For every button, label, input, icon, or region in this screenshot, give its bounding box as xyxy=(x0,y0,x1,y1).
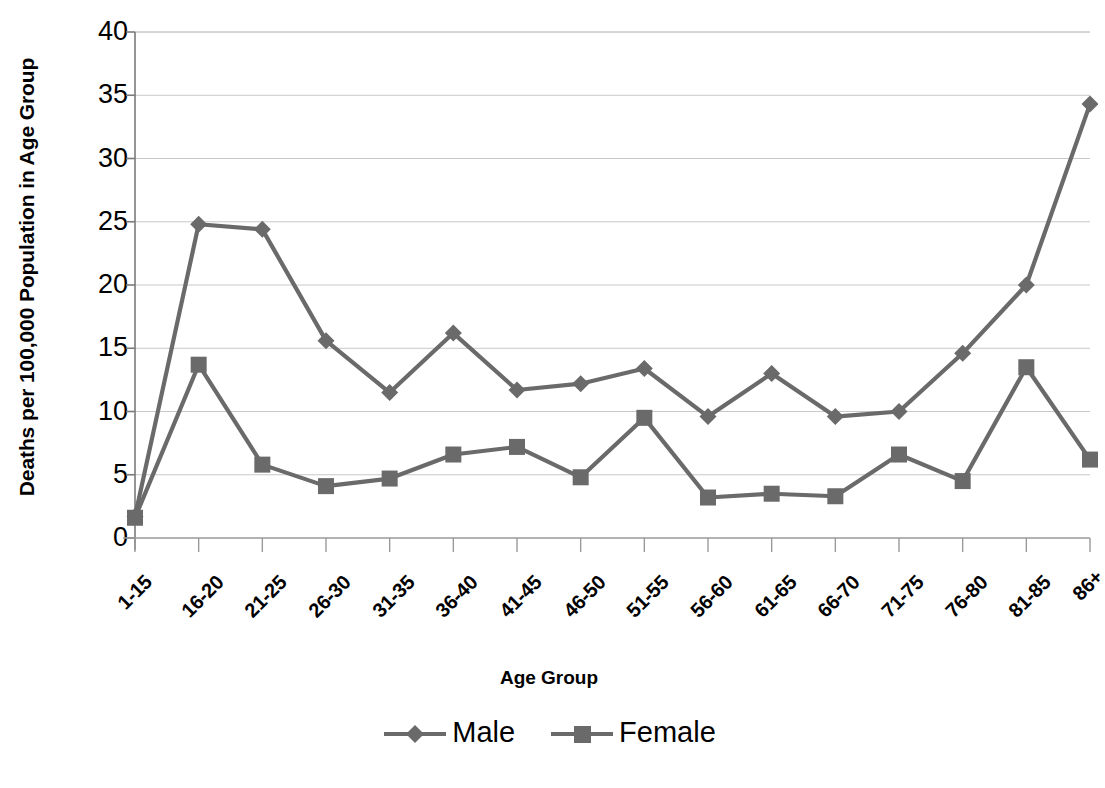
data-point-marker-female xyxy=(764,486,780,502)
caption-fragment xyxy=(10,776,710,788)
x-axis-tick-label: 86+ xyxy=(1068,566,1105,606)
legend-marker-diamond-icon xyxy=(382,721,448,747)
data-point-marker-female xyxy=(700,490,716,506)
data-point-marker-female xyxy=(827,488,843,504)
data-point-marker-female xyxy=(1082,452,1098,468)
x-axis-tick-label: 71-75 xyxy=(877,571,928,622)
x-axis-tick-label: 56-60 xyxy=(686,571,737,622)
x-axis-title: Age Group xyxy=(0,667,1098,689)
data-point-marker-female xyxy=(254,457,270,473)
data-point-marker-female xyxy=(318,478,334,494)
data-point-marker-female xyxy=(382,471,398,487)
data-point-marker-female xyxy=(509,439,525,455)
series-line-female xyxy=(135,365,1090,518)
legend-label: Male xyxy=(452,718,515,750)
data-point-marker-male xyxy=(190,216,207,233)
data-point-marker-female xyxy=(445,447,461,463)
data-point-marker-female xyxy=(891,447,907,463)
data-point-marker-male xyxy=(254,221,271,238)
legend-label: Female xyxy=(619,718,716,750)
chart-legend: MaleFemale xyxy=(0,718,1098,750)
x-axis-tick-label: 16-20 xyxy=(177,571,228,622)
x-axis-tick-label: 21-25 xyxy=(240,571,291,622)
data-point-marker-female xyxy=(1018,359,1034,375)
x-axis-tick-label: 51-55 xyxy=(622,571,673,622)
data-point-marker-female xyxy=(191,357,207,373)
data-point-marker-female xyxy=(573,469,589,485)
plot-area xyxy=(0,0,1098,560)
x-axis-tick-label: 31-35 xyxy=(368,571,419,622)
x-axis-tick-label: 66-70 xyxy=(813,571,864,622)
data-point-marker-male xyxy=(572,375,589,392)
series-line-male xyxy=(135,104,1090,516)
legend-item-female[interactable]: Female xyxy=(549,718,716,750)
x-axis-tick-label: 61-65 xyxy=(750,571,801,622)
legend-marker-square-icon xyxy=(549,721,615,747)
data-point-marker-male xyxy=(1082,96,1099,113)
x-axis-tick-label: 81-85 xyxy=(1004,571,1055,622)
legend-item-male[interactable]: Male xyxy=(382,718,515,750)
x-axis-tick-label: 76-80 xyxy=(941,571,992,622)
x-axis-tick-label: 36-40 xyxy=(431,571,482,622)
data-point-marker-female xyxy=(955,473,971,489)
x-axis-tick-label: 26-30 xyxy=(304,571,355,622)
x-axis-tick-label: 41-45 xyxy=(495,571,546,622)
data-point-marker-female xyxy=(127,510,143,526)
x-axis-tick-label: 1-15 xyxy=(113,570,157,614)
data-point-marker-female xyxy=(636,410,652,426)
x-axis-tick-label: 46-50 xyxy=(559,571,610,622)
